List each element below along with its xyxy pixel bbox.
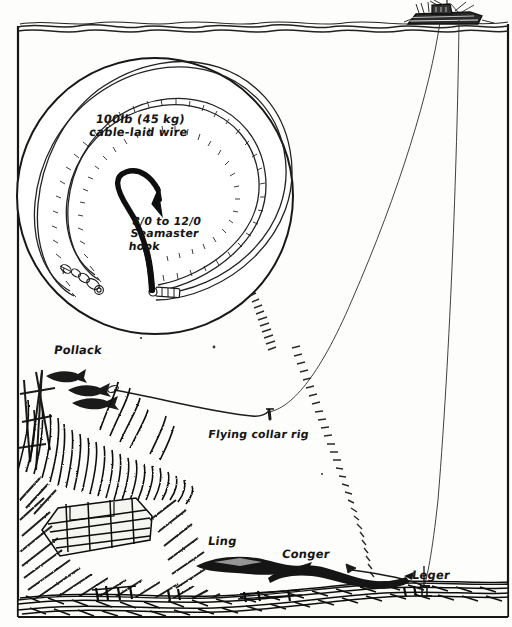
detail-circle-wire-trace: [17, 58, 293, 334]
fishing-diagram-canvas: [0, 0, 512, 627]
